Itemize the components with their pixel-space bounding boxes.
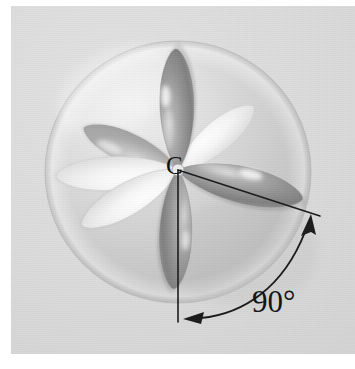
figure-root: C 90° <box>0 0 355 369</box>
angle-arc-arrowhead-start <box>183 312 204 324</box>
angle-label: 90° <box>252 286 295 317</box>
center-atom-label: C <box>166 153 183 178</box>
orbital-diagram-svg <box>11 6 355 354</box>
photo-plate <box>11 6 355 354</box>
